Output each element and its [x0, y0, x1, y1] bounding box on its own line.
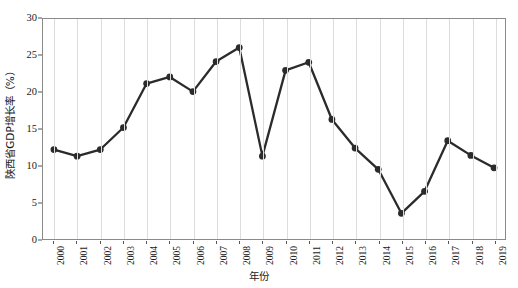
gridline-vertical	[101, 19, 102, 239]
gridline-vertical	[287, 19, 288, 239]
x-tick-mark	[123, 241, 124, 244]
x-tick-mark	[286, 241, 287, 244]
series-markers	[51, 44, 498, 216]
x-tick-mark	[262, 241, 263, 244]
data-point-marker	[305, 59, 312, 66]
x-tick-mark	[355, 241, 356, 244]
x-tick-mark	[146, 241, 147, 244]
series-polyline	[54, 48, 494, 214]
y-tick-label: 30	[27, 13, 38, 24]
x-tick-mark	[216, 241, 217, 244]
x-tick-label: 2006	[197, 246, 207, 265]
x-tick-mark	[425, 241, 426, 244]
gridline-vertical	[147, 19, 148, 239]
gridline-vertical	[310, 19, 311, 239]
y-axis-title-text: 陕西省GDP增长率（%）	[2, 66, 17, 179]
x-tick-mark	[332, 241, 333, 244]
gridline-vertical	[333, 19, 334, 239]
y-tick-label: 10	[27, 161, 38, 172]
x-tick-label: 2001	[80, 246, 90, 265]
x-tick-mark	[100, 241, 101, 244]
x-tick-label: 2009	[266, 246, 276, 265]
gridline-vertical	[263, 19, 264, 239]
x-tick-label: 2013	[359, 246, 369, 265]
y-axis-title: 陕西省GDP增长率（%）	[0, 0, 18, 244]
x-tick-label: 2007	[220, 246, 230, 265]
plot-area	[42, 18, 506, 240]
gridline-vertical	[449, 19, 450, 239]
x-tick-mark	[495, 241, 496, 244]
x-tick-mark	[169, 241, 170, 244]
y-tick-label: 20	[27, 87, 38, 98]
x-tick-mark	[472, 241, 473, 244]
gridline-vertical	[403, 19, 404, 239]
gridline-vertical	[473, 19, 474, 239]
gridline-vertical	[496, 19, 497, 239]
x-tick-label: 2017	[452, 246, 462, 265]
x-tick-mark	[239, 241, 240, 244]
x-tick-mark	[193, 241, 194, 244]
x-axis-title: 年份	[0, 268, 518, 283]
gridline-vertical	[217, 19, 218, 239]
gridline-vertical	[77, 19, 78, 239]
x-tick-mark	[448, 241, 449, 244]
x-tick-label: 2002	[104, 246, 114, 265]
gridline-vertical	[356, 19, 357, 239]
y-tick-label: 5	[32, 198, 37, 209]
x-tick-label: 2015	[406, 246, 416, 265]
series-line-gdp-growth	[43, 19, 505, 239]
x-tick-label: 2019	[499, 246, 509, 265]
x-tick-label: 2011	[313, 246, 323, 265]
x-tick-mark	[402, 241, 403, 244]
x-tick-mark	[76, 241, 77, 244]
x-tick-label: 2014	[383, 246, 393, 265]
x-tick-mark	[379, 241, 380, 244]
gridline-vertical	[240, 19, 241, 239]
data-point-marker	[190, 88, 197, 95]
x-tick-label: 2012	[336, 246, 346, 265]
x-tick-label: 2005	[173, 246, 183, 265]
x-tick-label: 2016	[429, 246, 439, 265]
gdp-growth-line-chart: 陕西省GDP增长率（%） 051015202530 20002001200220…	[0, 0, 518, 288]
y-tick-label: 0	[32, 235, 37, 246]
x-tick-label: 2003	[127, 246, 137, 265]
gridline-vertical	[426, 19, 427, 239]
x-tick-mark	[53, 241, 54, 244]
x-tick-label: 2004	[150, 246, 160, 265]
x-tick-mark	[309, 241, 310, 244]
gridline-vertical	[380, 19, 381, 239]
x-tick-label: 2008	[243, 246, 253, 265]
x-tick-label: 2018	[476, 246, 486, 265]
gridline-vertical	[170, 19, 171, 239]
y-tick-label: 15	[27, 124, 38, 135]
gridline-vertical	[194, 19, 195, 239]
y-tick-label: 25	[27, 50, 38, 61]
x-tick-label: 2000	[57, 246, 67, 265]
gridline-vertical	[124, 19, 125, 239]
gridline-vertical	[54, 19, 55, 239]
data-point-marker	[329, 116, 336, 123]
x-tick-label: 2010	[290, 246, 300, 265]
data-point-marker	[444, 137, 451, 144]
y-axis-ticks: 051015202530	[18, 18, 42, 240]
